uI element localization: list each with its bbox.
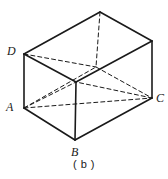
vertex-label-d: D <box>7 45 16 57</box>
diagonal-A-C <box>24 98 152 108</box>
top-mid-right <box>76 41 152 82</box>
vertex-label-a: A <box>6 101 13 113</box>
figure-panel: D A C B ( b ) <box>0 0 168 179</box>
hidden-edges-group <box>24 12 152 108</box>
solid-edges-group <box>24 12 152 140</box>
diagonal-C-topmid <box>76 82 152 98</box>
vertex-label-c: C <box>156 92 164 104</box>
top-left-D-mid <box>24 54 76 82</box>
interior-vertical <box>75 82 76 140</box>
front-bottom-BC <box>75 98 152 140</box>
rear-vertical-dashed <box>96 12 100 67</box>
hidden-rear-C <box>96 67 152 98</box>
top-rear-left <box>24 12 100 54</box>
figure-caption: ( b ) <box>0 158 168 170</box>
top-rear-right <box>100 12 152 41</box>
box-diagram <box>0 0 168 179</box>
front-bottom-AB <box>24 108 75 140</box>
vertex-label-b: B <box>71 146 78 158</box>
